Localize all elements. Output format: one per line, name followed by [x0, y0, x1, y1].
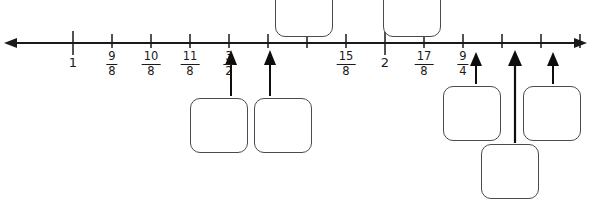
- number-line-diagram: 1 9 8 10 8 11 8 3 2 15 8 2 17 8 9 4: [0, 0, 591, 202]
- tick-label-9-4-numerator: 9: [457, 51, 468, 65]
- answer-box-bottom-mid[interactable]: [481, 144, 539, 199]
- tick-label-15-8-denominator: 8: [337, 65, 356, 78]
- tick-label-2-text: 2: [381, 55, 389, 70]
- tick-label-11-8-numerator: 11: [181, 51, 200, 65]
- tick-label-17-8-denominator: 8: [415, 65, 434, 78]
- tick-label-15-8-numerator: 15: [337, 51, 356, 65]
- tick-label-17-8-numerator: 17: [415, 51, 434, 65]
- answer-box-top-2[interactable]: [383, 0, 441, 37]
- tick-label-3-2-denominator: 2: [223, 65, 234, 78]
- tick-label-9-8: 9 8: [106, 51, 117, 77]
- tick-label-17-8: 17 8: [415, 51, 434, 77]
- arrow-marker-5: [547, 52, 559, 84]
- arrow-marker-2: [264, 50, 276, 96]
- tick-label-9-8-numerator: 9: [106, 51, 117, 65]
- tick-label-9-4: 9 4: [457, 51, 468, 77]
- tick-label-15-8: 15 8: [337, 51, 356, 77]
- arrow-marker-3: [470, 52, 482, 84]
- answer-box-right-1[interactable]: [443, 86, 501, 141]
- axis-left-arrowhead: [4, 38, 17, 48]
- answer-box-top-1[interactable]: [275, 0, 333, 37]
- tick-label-11-8-denominator: 8: [181, 65, 200, 78]
- arrow-marker-4: [508, 50, 522, 143]
- tick-label-10-8-numerator: 10: [142, 51, 161, 65]
- tick-label-3-2: 3 2: [223, 51, 234, 77]
- tick-label-9-4-denominator: 4: [457, 65, 468, 78]
- tick-label-11-8: 11 8: [181, 51, 200, 77]
- answer-box-right-2[interactable]: [523, 86, 581, 141]
- answer-box-lower-2[interactable]: [254, 98, 312, 153]
- tick-label-9-8-denominator: 8: [106, 65, 117, 78]
- tick-label-10-8: 10 8: [142, 51, 161, 77]
- tick-label-3-2-numerator: 3: [223, 51, 234, 65]
- tick-label-1-text: 1: [69, 55, 77, 70]
- tick-label-2: 2: [381, 56, 389, 69]
- tick-label-1: 1: [69, 56, 77, 69]
- tick-label-10-8-denominator: 8: [142, 65, 161, 78]
- answer-box-lower-1[interactable]: [190, 98, 248, 153]
- axis-group: [4, 38, 587, 48]
